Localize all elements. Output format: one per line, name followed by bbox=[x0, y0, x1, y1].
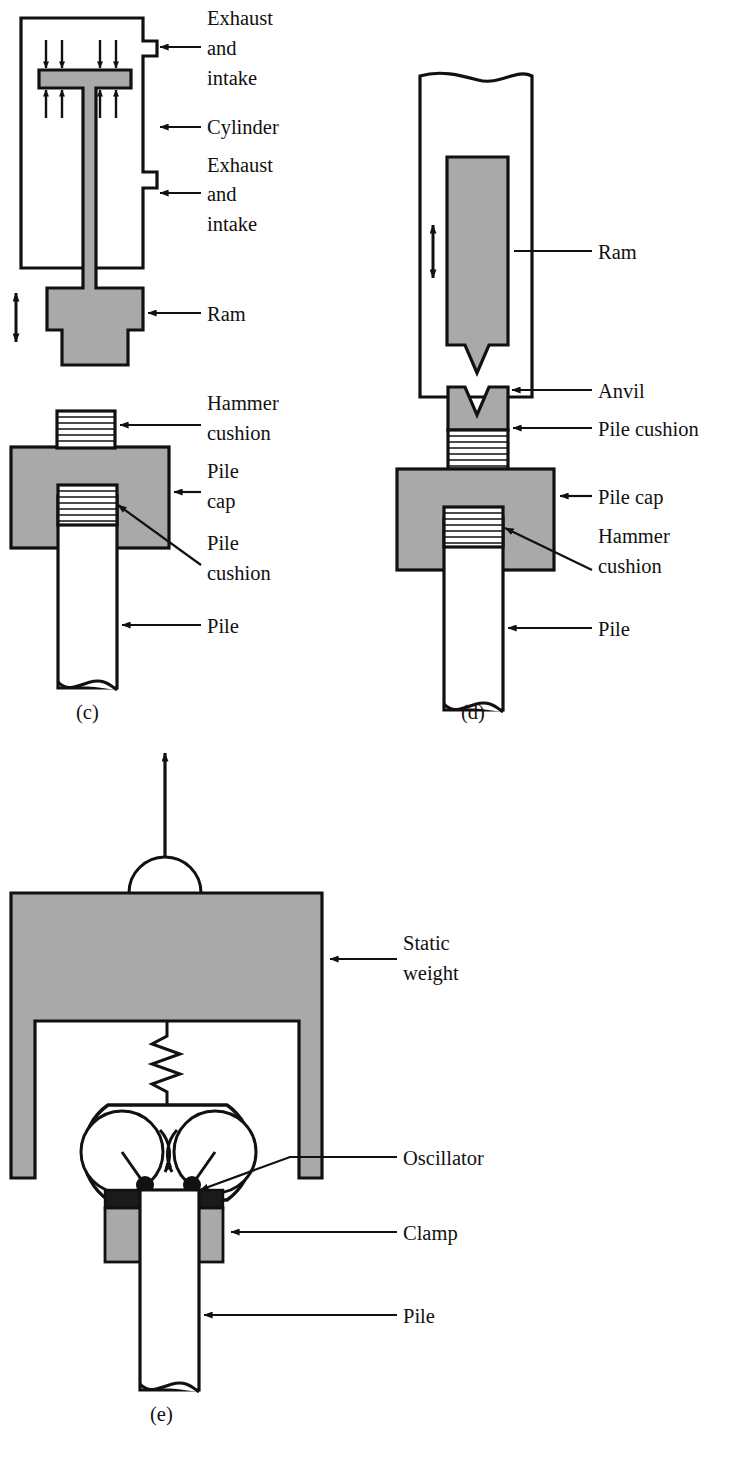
label-oscillator: Oscillator bbox=[403, 1147, 484, 1169]
label-anvil-d: Anvil bbox=[598, 380, 645, 402]
label-hammer-cushion-c-line1: Hammer bbox=[207, 392, 279, 414]
label-pile-c: Pile bbox=[207, 615, 239, 637]
label-pile-e: Pile bbox=[403, 1305, 435, 1327]
label-clamp: Clamp bbox=[403, 1222, 458, 1245]
label-hammer-cushion-d-line1: Hammer bbox=[598, 525, 670, 547]
hammer-cushion-d bbox=[444, 507, 503, 547]
label-pile-cap-d: Pile cap bbox=[598, 486, 663, 509]
label-cylinder: Cylinder bbox=[207, 116, 279, 139]
label-exhaust-bottom-line1: Exhaust bbox=[207, 154, 273, 176]
label-hammer-cushion-c-line2: cushion bbox=[207, 422, 271, 444]
label-exhaust-bottom-line2: and bbox=[207, 183, 237, 205]
pile-body-e bbox=[140, 1190, 199, 1390]
label-pile-cushion-c-line1: Pile bbox=[207, 532, 239, 554]
figure-root: Exhaust and intake Cylinder Exhaust and … bbox=[0, 0, 741, 1457]
label-exhaust-top-line2: and bbox=[207, 37, 237, 59]
panel-letter-d: (d) bbox=[461, 701, 485, 724]
label-pile-cushion-c-line2: cushion bbox=[207, 562, 271, 584]
label-static-weight-line2: weight bbox=[403, 962, 459, 985]
label-hammer-cushion-d-line2: cushion bbox=[598, 555, 662, 577]
pile-hammer-figure: Exhaust and intake Cylinder Exhaust and … bbox=[0, 0, 741, 1457]
pile-cushion-d bbox=[448, 430, 508, 469]
label-ram-c: Ram bbox=[207, 303, 246, 325]
label-ram-d: Ram bbox=[598, 241, 637, 263]
hammer-cushion-c bbox=[57, 411, 115, 448]
panel-letter-e: (e) bbox=[150, 1403, 173, 1426]
panel-letter-c: (c) bbox=[76, 701, 99, 724]
label-exhaust-bottom-line3: intake bbox=[207, 213, 257, 235]
label-exhaust-top-line1: Exhaust bbox=[207, 7, 273, 29]
label-pile-d: Pile bbox=[598, 618, 630, 640]
label-exhaust-top-line3: intake bbox=[207, 67, 257, 89]
label-pile-cushion-d: Pile cushion bbox=[598, 418, 699, 440]
pile-cushion-c bbox=[58, 485, 117, 525]
ram-shape-d bbox=[447, 157, 508, 373]
label-static-weight-line1: Static bbox=[403, 932, 450, 954]
label-pile-cap-c-line2: cap bbox=[207, 490, 235, 513]
label-pile-cap-c-line1: Pile bbox=[207, 460, 239, 482]
